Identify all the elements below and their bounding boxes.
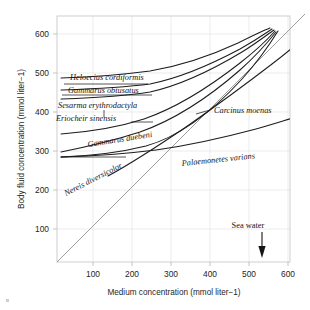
osmoregulation-chart-figure: 100 200 300 400 500 600 600 500 400 300 … bbox=[0, 0, 310, 310]
x-tick-labels: 100 200 300 400 500 600 bbox=[86, 269, 295, 279]
x-tick-label: 300 bbox=[164, 269, 178, 279]
x-tick-label: 100 bbox=[86, 269, 100, 279]
y-tick-label: 300 bbox=[35, 146, 49, 156]
scan-speck bbox=[6, 299, 9, 302]
y-axis-ticks bbox=[53, 34, 57, 229]
x-tick-label: 200 bbox=[125, 269, 139, 279]
y-axis-title: Body fluid concentration (mmol liter−1) bbox=[17, 69, 26, 209]
species-label-gammarus-obtusatus: Gammarus obtusatus bbox=[68, 86, 139, 95]
y-tick-label: 500 bbox=[35, 68, 49, 78]
species-label-eriocheir-sinensis: Eriocheir sinensis bbox=[55, 114, 116, 123]
y-tick-label: 600 bbox=[35, 29, 49, 39]
x-tick-label: 400 bbox=[203, 269, 217, 279]
sea-water-label: Sea water bbox=[232, 221, 265, 230]
species-label-carcinus-moenas: Carcinus moenas bbox=[214, 106, 272, 115]
x-axis-title: Medium concentration (mmol liter−1) bbox=[107, 288, 240, 297]
y-tick-labels: 600 500 400 300 200 100 bbox=[35, 29, 49, 234]
y-tick-label: 200 bbox=[35, 185, 49, 195]
chart-svg: 100 200 300 400 500 600 600 500 400 300 … bbox=[0, 0, 310, 310]
x-tick-label: 600 bbox=[281, 269, 295, 279]
y-tick-label: 100 bbox=[35, 224, 49, 234]
x-tick-label: 500 bbox=[242, 269, 256, 279]
species-label-heloecius-cordiformis: Heloecius cordiformis bbox=[69, 73, 144, 82]
x-axis-ticks bbox=[93, 262, 288, 266]
species-label-sesarma-erythrodactyla: Sesarma erythrodactyla bbox=[58, 101, 137, 110]
y-tick-label: 400 bbox=[35, 107, 49, 117]
